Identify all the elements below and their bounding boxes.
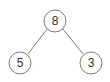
node-right-label: 3 — [88, 56, 95, 70]
node-root-label: 8 — [52, 14, 59, 28]
edge-root-left — [28, 29, 47, 54]
node-left: 5 — [9, 52, 31, 74]
edge-root-right — [63, 29, 83, 54]
node-left-label: 5 — [17, 56, 24, 70]
node-root: 8 — [44, 10, 66, 32]
binary-tree-diagram: 8 5 3 — [0, 0, 110, 82]
node-right: 3 — [80, 52, 102, 74]
